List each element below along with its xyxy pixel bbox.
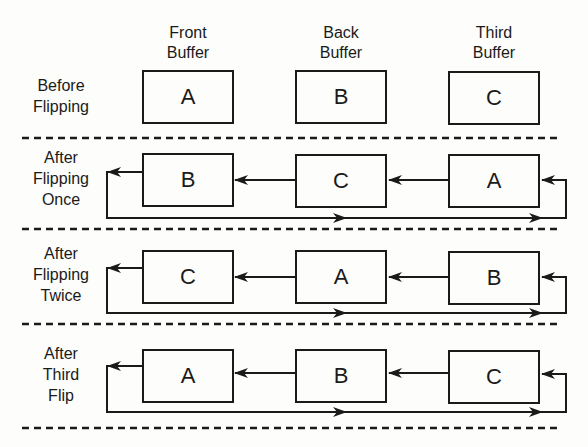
buffer-label: A xyxy=(181,84,196,110)
buffer-box-front: B xyxy=(142,153,234,207)
buffer-label: A xyxy=(334,264,349,290)
buffer-box-front: A xyxy=(142,70,234,124)
buffer-box-third: C xyxy=(448,350,540,404)
buffer-label: C xyxy=(486,364,502,390)
buffer-label: B xyxy=(487,265,502,291)
buffer-label: C xyxy=(333,168,349,194)
buffer-label: A xyxy=(487,168,502,194)
buffer-label: C xyxy=(486,85,502,111)
buffer-box-front: A xyxy=(142,349,234,403)
buffer-box-back: B xyxy=(295,349,387,403)
buffer-box-third: B xyxy=(448,251,540,305)
buffer-box-third: C xyxy=(448,71,540,125)
buffer-label: B xyxy=(334,363,349,389)
buffer-box-back: A xyxy=(295,250,387,304)
buffer-label: C xyxy=(180,264,196,290)
buffer-label: B xyxy=(181,167,196,193)
buffer-box-back: C xyxy=(295,154,387,208)
buffer-box-third: A xyxy=(448,154,540,208)
buffer-box-front: C xyxy=(142,250,234,304)
buffer-label: B xyxy=(334,84,349,110)
buffer-box-back: B xyxy=(295,70,387,124)
buffer-label: A xyxy=(181,363,196,389)
